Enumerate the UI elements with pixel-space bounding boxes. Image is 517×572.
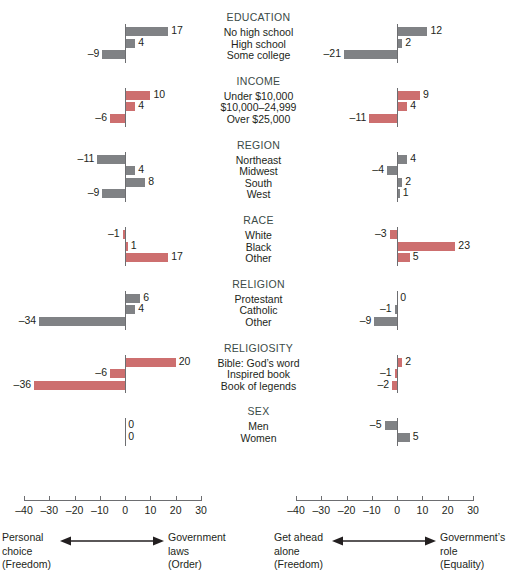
bar-value-label: 2 (405, 38, 411, 47)
zero-line (125, 88, 126, 127)
bar (397, 27, 427, 36)
axis-tick-label: 0 (112, 504, 138, 516)
bar (125, 166, 135, 175)
bar-value-label: –6 (95, 368, 107, 377)
bar (397, 91, 420, 100)
x-axis-right: –40–30–20–100102030 (280, 500, 497, 530)
bar-value-label: 20 (179, 357, 191, 366)
bar (125, 102, 135, 111)
axis-tick (422, 496, 423, 501)
bar-value-label: 4 (138, 38, 144, 47)
bar-value-label: –11 (78, 154, 95, 163)
zero-line (125, 418, 126, 445)
bar (369, 114, 397, 123)
legend-right-label: Governmentlaws(Order) (168, 531, 226, 572)
axis-tick (448, 496, 449, 501)
bar-value-label: 17 (171, 26, 183, 35)
bar-value-label: 4 (410, 154, 416, 163)
bar-value-label: 12 (430, 26, 442, 35)
legend-line: Government’s (440, 531, 505, 545)
bar-value-label: –21 (324, 49, 342, 58)
legend-line: Government (168, 531, 226, 545)
bar (102, 50, 125, 59)
legend-line: laws (168, 545, 226, 559)
bar-value-label: 4 (138, 304, 144, 313)
zero-line (397, 227, 398, 266)
bar-value-label: 6 (143, 293, 149, 302)
bar-value-label: 0 (128, 432, 134, 441)
double-arrow-icon (60, 536, 164, 546)
axis-tick (49, 496, 50, 501)
zero-line (397, 418, 398, 445)
bar-value-label: 4 (138, 165, 144, 174)
zero-line (125, 355, 126, 394)
zero-line (125, 24, 126, 63)
bar (110, 114, 125, 123)
axis-tick-label: 30 (188, 504, 214, 516)
bar-value-label: 4 (410, 101, 416, 110)
panel-right: 122–2194–114–421–32350–1–92–1–2–55 –40–3… (280, 0, 497, 500)
bar-value-label: –1 (108, 229, 120, 238)
axis-tick (397, 496, 398, 501)
zero-line (125, 227, 126, 266)
axis-tick-label: –30 (308, 504, 334, 516)
bar (397, 102, 407, 111)
bar-value-label: –2 (377, 380, 389, 389)
bar-value-label: –4 (372, 165, 384, 174)
bar (34, 381, 125, 390)
bar (125, 178, 145, 187)
bar-value-label: –9 (88, 188, 100, 197)
legend-left: Personalchoice(Freedom)Governmentlaws(Or… (2, 531, 252, 572)
bar-value-label: 23 (458, 241, 470, 250)
axis-tick (75, 496, 76, 501)
bar (97, 155, 125, 164)
zero-line (397, 88, 398, 127)
legend-left-label: Personalchoice(Freedom) (2, 531, 51, 572)
legend-left-label: Get aheadalone(Freedom) (274, 531, 323, 572)
axis-tick (372, 496, 373, 501)
bar-value-label: –9 (360, 316, 372, 325)
bar (385, 421, 398, 430)
axis-tick (150, 496, 151, 501)
bar (344, 50, 397, 59)
bar-value-label: –9 (88, 49, 100, 58)
legend-line: (Freedom) (2, 558, 51, 572)
legend-line: alone (274, 545, 323, 559)
bar-value-label: 5 (413, 252, 419, 261)
bar-value-label: 2 (405, 357, 411, 366)
bar-value-label: –5 (370, 420, 382, 429)
axis-tick (125, 496, 126, 501)
axis-tick-label: 10 (409, 504, 435, 516)
bar-value-label: –34 (19, 316, 37, 325)
bar-value-label: 9 (423, 90, 429, 99)
zero-line (397, 291, 398, 330)
axis-tick-label: –20 (334, 504, 360, 516)
bar-value-label: –11 (350, 113, 367, 122)
bar (387, 166, 397, 175)
bar-value-label: 5 (413, 432, 419, 441)
axis-tick (321, 496, 322, 501)
bar-value-label: 17 (171, 252, 183, 261)
legend-line: Get ahead (274, 531, 323, 545)
bar (390, 230, 398, 239)
bar (102, 189, 125, 198)
axis-tick-label: 0 (384, 504, 410, 516)
zero-line (125, 152, 126, 202)
bar-value-label: –3 (375, 229, 387, 238)
axis-tick (24, 496, 25, 501)
zero-line (397, 152, 398, 202)
axis-line (24, 500, 201, 501)
axis-tick-label: 10 (137, 504, 163, 516)
axis-line (296, 500, 473, 501)
bar-value-label: 0 (400, 293, 406, 302)
panel-left: 174–9104–6–1148–9–111764–3420–6–3600 –40… (8, 0, 225, 500)
bar (374, 317, 397, 326)
legend-right-label: Government’srole(Equality) (440, 531, 505, 572)
bar-value-label: 0 (128, 420, 134, 429)
legend-line: (Freedom) (274, 558, 323, 572)
bar (110, 369, 125, 378)
bar-value-label: 8 (148, 177, 154, 186)
legend-line: (Order) (168, 558, 226, 572)
axis-tick-label: 30 (460, 504, 486, 516)
double-arrow-icon (332, 536, 436, 546)
